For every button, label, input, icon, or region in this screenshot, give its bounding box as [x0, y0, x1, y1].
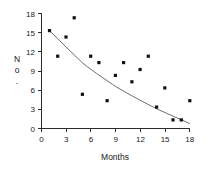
- data-point: [106, 99, 109, 102]
- x-tick-label: 15: [161, 135, 170, 144]
- data-point: [64, 35, 67, 38]
- data-point: [56, 55, 59, 58]
- data-point: [114, 74, 117, 77]
- data-points: [48, 16, 192, 121]
- y-tick-label: 6: [31, 86, 36, 95]
- x-axis-title: Months: [101, 152, 129, 162]
- y-axis-title-letter: o: [15, 65, 20, 75]
- data-point: [147, 55, 150, 58]
- y-tick-label: 3: [31, 105, 36, 114]
- y-axis-title-letter: .: [16, 76, 18, 86]
- x-tick-label: 3: [64, 135, 69, 144]
- data-point: [48, 29, 51, 32]
- scatter-plot: 18 15 12 9 6 3 0 0 3 6 9 12 15 18 Months…: [0, 0, 220, 171]
- data-point: [171, 118, 174, 121]
- y-tick-label: 12: [26, 48, 35, 57]
- data-point: [81, 93, 84, 96]
- y-tick-label: 15: [26, 29, 35, 38]
- y-axis-ticks: [38, 14, 42, 129]
- y-axis-title: N o .: [14, 54, 20, 86]
- data-point: [155, 106, 158, 109]
- chart-figure: 18 15 12 9 6 3 0 0 3 6 9 12 15 18 Months…: [0, 0, 220, 171]
- x-axis-tick-labels: 0 3 6 9 12 15 18: [39, 135, 195, 144]
- data-point: [122, 61, 125, 64]
- x-tick-label: 12: [136, 135, 145, 144]
- x-tick-label: 0: [39, 135, 44, 144]
- data-point: [163, 86, 166, 89]
- y-tick-label: 9: [31, 67, 36, 76]
- data-point: [180, 118, 183, 121]
- fitted-curve: [50, 31, 190, 124]
- y-axis-tick-labels: 18 15 12 9 6 3 0: [26, 10, 35, 134]
- y-tick-label: 0: [31, 125, 36, 134]
- data-point: [97, 61, 100, 64]
- x-tick-label: 6: [89, 135, 94, 144]
- x-tick-label: 9: [113, 135, 118, 144]
- y-tick-label: 18: [26, 10, 35, 19]
- x-axis-ticks: [42, 129, 190, 133]
- data-point: [73, 16, 76, 19]
- data-point: [139, 68, 142, 71]
- x-tick-label: 18: [185, 135, 194, 144]
- data-point: [130, 80, 133, 83]
- y-axis-title-letter: N: [14, 54, 20, 64]
- data-point: [89, 55, 92, 58]
- data-point: [188, 99, 191, 102]
